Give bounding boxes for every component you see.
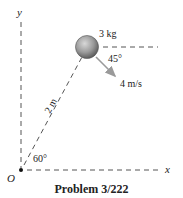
particle-ball [76, 36, 99, 59]
velocity-angle-label: 45° [108, 53, 122, 64]
origin-point [19, 168, 23, 172]
problem-caption: Problem 3/222 [0, 182, 183, 197]
problem-diagram: y x O 2 m 60° 3 kg 45° 4 m/s [0, 0, 183, 198]
length-label: 2 m [42, 96, 59, 115]
velocity-label: 4 m/s [120, 78, 142, 89]
angle-60-label: 60° [33, 153, 47, 164]
y-axis-label: y [16, 6, 22, 18]
mass-label: 3 kg [99, 28, 117, 39]
x-axis-label: x [164, 163, 170, 175]
